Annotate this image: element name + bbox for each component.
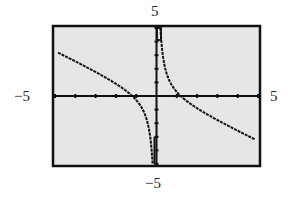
graph-plot bbox=[0, 0, 288, 197]
